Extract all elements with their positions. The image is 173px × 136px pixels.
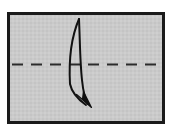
diagram-canvas — [0, 0, 173, 136]
origami-fold-diagram — [0, 0, 173, 136]
paper-sheet — [9, 14, 164, 123]
paper-fill — [9, 14, 164, 123]
